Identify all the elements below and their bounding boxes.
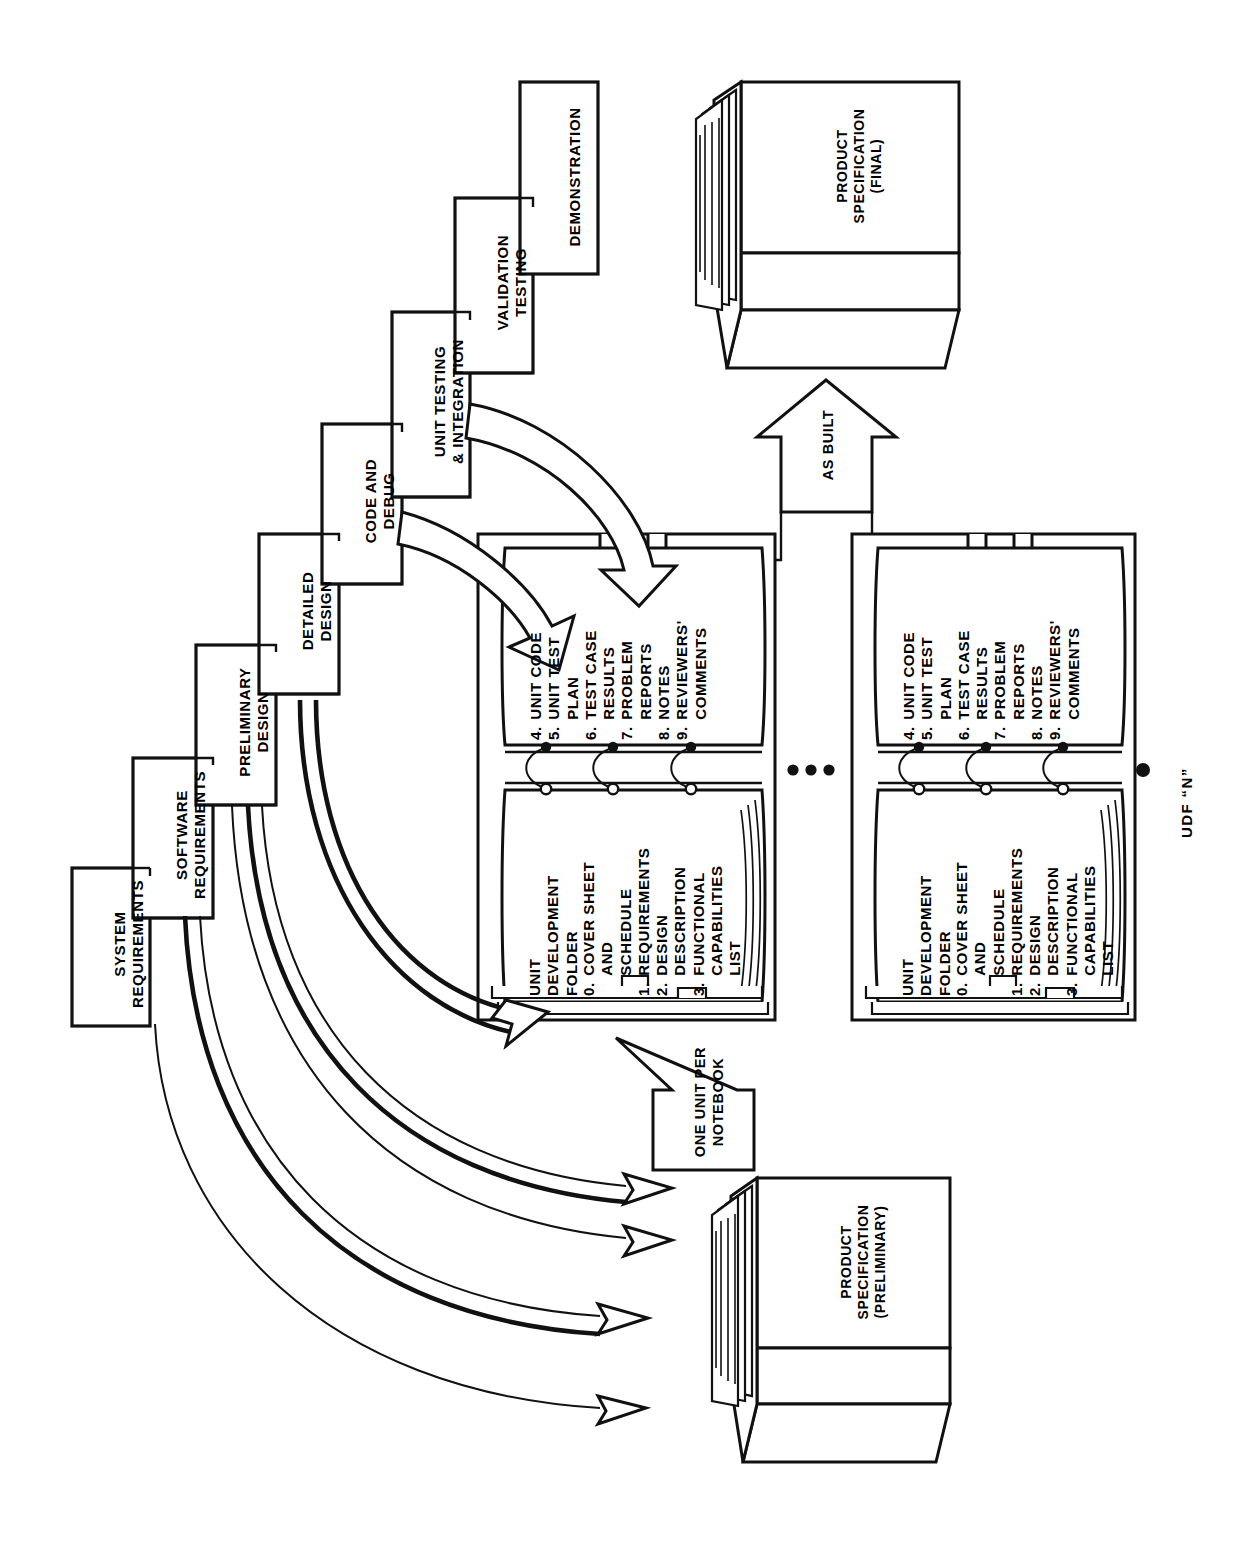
udf-ellipsis-dots xyxy=(787,764,834,775)
doc-product-spec-final xyxy=(696,82,959,368)
doc-product-spec-preliminary xyxy=(712,1178,950,1462)
arrow-one-unit-per-notebook xyxy=(616,1038,754,1170)
phase-box-demonstration xyxy=(520,82,598,274)
arrow-as-built xyxy=(757,380,896,512)
udf-notebook-2 xyxy=(852,534,1150,1020)
diagram-canvas: .bx{fill:#fff;stroke:#111;stroke-width:3… xyxy=(0,0,1244,1560)
phase-box-code-and-debug xyxy=(322,424,402,584)
diagram-artwork: .bx{fill:#fff;stroke:#111;stroke-width:3… xyxy=(0,0,1244,1560)
